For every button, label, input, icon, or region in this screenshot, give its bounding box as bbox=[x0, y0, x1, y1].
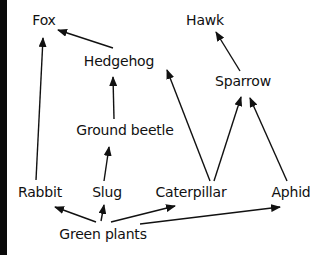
node-hawk: Hawk bbox=[186, 13, 224, 27]
arrow-aphid-to-sparrow bbox=[250, 98, 287, 181]
node-rabbit: Rabbit bbox=[18, 185, 62, 199]
node-slug: Slug bbox=[92, 185, 122, 199]
arrow-green_plants-to-rabbit bbox=[55, 207, 96, 222]
arrow-green_plants-to-caterpillar bbox=[111, 206, 175, 222]
arrow-caterpillar-to-sparrow bbox=[214, 97, 241, 181]
node-caterpillar: Caterpillar bbox=[156, 185, 227, 199]
node-hedgehog: Hedgehog bbox=[84, 54, 154, 68]
arrow-hedgehog-to-fox bbox=[58, 30, 113, 48]
node-fox: Fox bbox=[32, 13, 55, 27]
node-green-plants: Green plants bbox=[59, 227, 146, 241]
arrow-rabbit-to-fox bbox=[36, 38, 43, 180]
node-sparrow: Sparrow bbox=[215, 74, 271, 88]
node-ground-beetle: Ground beetle bbox=[76, 123, 173, 137]
arrow-slug-to-ground_beetle bbox=[104, 147, 109, 181]
arrow-sparrow-to-hawk bbox=[216, 32, 240, 71]
arrow-ground_beetle-to-hedgehog bbox=[113, 77, 114, 119]
node-aphid: Aphid bbox=[271, 185, 310, 199]
arrow-green_plants-to-slug bbox=[101, 205, 104, 221]
